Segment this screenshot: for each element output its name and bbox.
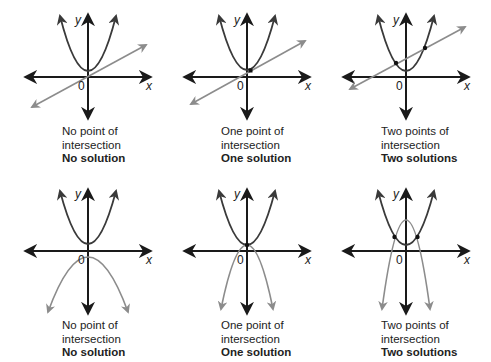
y-axis-label: y (233, 187, 241, 201)
secant-line (350, 27, 465, 89)
origin-label: 0 (78, 253, 85, 267)
caption-panel-2: One point of intersection One solution (221, 125, 291, 166)
graph-panel-2 (185, 15, 309, 118)
y-axis-label: y (233, 13, 241, 27)
caption-line: intersection (221, 333, 291, 347)
origin-label: 0 (78, 79, 85, 93)
caption-panel-3: Two points of intersection Two solutions (381, 125, 457, 166)
origin-label: 0 (237, 253, 244, 267)
y-axis-label: y (392, 13, 400, 27)
caption-line: One point of (221, 125, 291, 139)
x-axis-label: x (145, 253, 153, 267)
caption-result: One solution (221, 346, 291, 360)
diagram-canvas: y x y x y x y x y x y x 0 0 0 0 0 0 (0, 0, 491, 362)
graph-panel-5 (185, 190, 309, 313)
caption-line: intersection (381, 333, 457, 347)
graph-panel-3 (344, 15, 468, 118)
caption-line: One point of (221, 319, 291, 333)
caption-result: Two solutions (381, 346, 457, 360)
x-axis-label: x (304, 253, 312, 267)
intersection-point (249, 69, 253, 73)
graph-panel-6 (344, 190, 468, 313)
origin-label: 0 (396, 79, 403, 93)
caption-line: No point of (62, 319, 125, 333)
caption-result: No solution (62, 346, 125, 360)
intersection-point (415, 235, 419, 239)
y-axis-label: y (74, 187, 82, 201)
caption-line: Two points of (381, 319, 457, 333)
caption-line: No point of (62, 125, 125, 139)
x-axis-label: x (463, 253, 471, 267)
x-axis-label: x (145, 79, 153, 93)
caption-panel-6: Two points of intersection Two solutions (381, 319, 457, 360)
origin-label: 0 (396, 253, 403, 267)
intersection-point (392, 235, 396, 239)
caption-result: Two solutions (381, 152, 457, 166)
origin-label: 0 (237, 79, 244, 93)
caption-line: intersection (381, 139, 457, 153)
graph-panel-4 (26, 190, 150, 313)
caption-line: intersection (62, 139, 125, 153)
caption-panel-1: No point of intersection No solution (62, 125, 125, 166)
caption-panel-4: No point of intersection No solution (62, 319, 125, 360)
intersection-point (423, 46, 427, 50)
intersection-point (394, 61, 398, 65)
caption-line: intersection (221, 139, 291, 153)
caption-result: No solution (62, 152, 125, 166)
graph-panel-1 (26, 15, 150, 118)
x-axis-label: x (304, 79, 312, 93)
caption-result: One solution (221, 152, 291, 166)
intersection-point (245, 243, 249, 247)
caption-panel-5: One point of intersection One solution (221, 319, 291, 360)
y-axis-label: y (74, 13, 82, 27)
y-axis-label: y (392, 187, 400, 201)
x-axis-label: x (463, 79, 471, 93)
caption-line: Two points of (381, 125, 457, 139)
caption-line: intersection (62, 333, 125, 347)
